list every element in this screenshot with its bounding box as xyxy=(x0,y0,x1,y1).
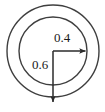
outer-radius-label: 0.4 xyxy=(54,31,70,44)
concentric-circles-diagram: 0.4 0.6 xyxy=(0,0,105,112)
annulus-graphic xyxy=(0,0,105,112)
inner-radius-label: 0.6 xyxy=(32,58,48,71)
